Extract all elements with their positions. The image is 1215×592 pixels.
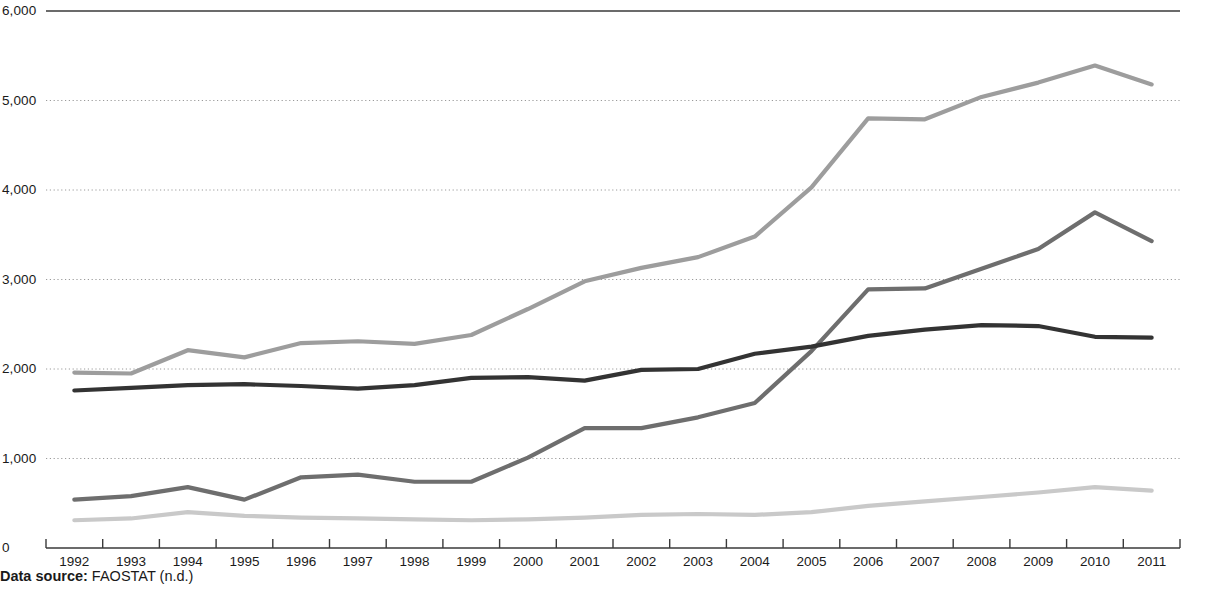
x-axis-tick-label: 1995 (216, 554, 273, 569)
x-axis-tick-label: 1997 (330, 554, 387, 569)
x-axis-tick-label: 1994 (159, 554, 216, 569)
x-axis-tick-label: 2001 (556, 554, 613, 569)
x-axis-tick-label: 2011 (1123, 554, 1180, 569)
x-axis-tick-label: 2005 (783, 554, 840, 569)
data-source-value: FAOSTAT (n.d.) (88, 568, 194, 584)
x-axis-tick-label: 2000 (500, 554, 557, 569)
x-axis-tick-label: 1992 (46, 554, 103, 569)
y-axis-tick-label: 6,000 (2, 3, 36, 18)
y-axis-tick-label: 4,000 (2, 182, 36, 197)
chart-container: 01,0002,0003,0004,0005,0006,000 19921993… (0, 0, 1215, 592)
y-axis-tick-label: 5,000 (2, 93, 36, 108)
y-axis-tick-label: 1,000 (2, 451, 36, 466)
x-axis-tick-label: 1998 (386, 554, 443, 569)
x-axis-tick-label: 2008 (953, 554, 1010, 569)
x-axis-tick-label: 2006 (840, 554, 897, 569)
x-axis-tick-label: 2002 (613, 554, 670, 569)
y-axis-tick-label: 3,000 (2, 272, 36, 287)
x-axis-tick-label: 2003 (670, 554, 727, 569)
series-line-series-4 (74, 487, 1151, 520)
chart-canvas (0, 0, 1215, 592)
x-axis-tick-label: 2010 (1067, 554, 1124, 569)
y-axis-tick-label: 2,000 (2, 361, 36, 376)
axes (46, 539, 1180, 548)
x-axis-tick-label: 2009 (1010, 554, 1067, 569)
x-axis-tick-label: 2007 (897, 554, 954, 569)
data-source-note: Data source: FAOSTAT (n.d.) (0, 568, 193, 584)
y-axis-tick-label: 0 (2, 540, 10, 555)
x-axis-tick-label: 2004 (726, 554, 783, 569)
data-source-label: Data source: (0, 568, 88, 584)
x-axis-tick-label: 1993 (103, 554, 160, 569)
data-series (74, 66, 1151, 521)
x-axis-tick-label: 1999 (443, 554, 500, 569)
x-axis-tick-label: 1996 (273, 554, 330, 569)
